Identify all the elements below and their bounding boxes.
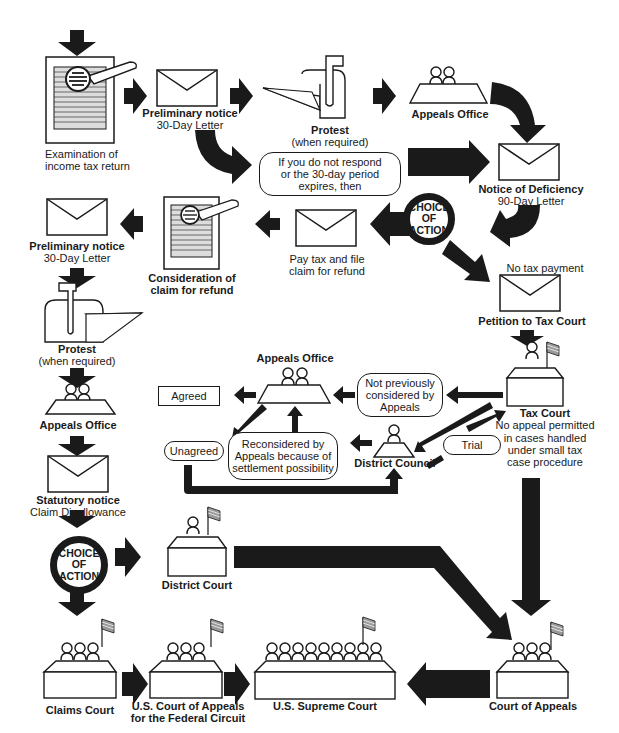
examination-document-icon	[46, 57, 136, 143]
arrow-fed-to-supreme	[224, 663, 250, 705]
tax-court-title: Tax Court	[485, 407, 605, 419]
arrow-refund-to-prelim	[120, 208, 143, 240]
protest-left-title: Protest	[28, 343, 126, 355]
deficiency-envelope-icon	[499, 144, 559, 180]
refund-claim-line1: Consideration of	[142, 272, 242, 284]
not-previously-line1: Not previously	[365, 377, 435, 389]
prelim-left-envelope-icon	[47, 199, 107, 235]
protest-left-label: Protest (when required)	[28, 343, 126, 368]
tax-appeal-flowchart: Examination of income tax return Prelimi…	[0, 0, 619, 733]
tax-court-line2: in cases handled	[485, 432, 605, 444]
arrow-into-examination	[58, 30, 96, 56]
arrow-tax-court-to-not-previously	[446, 386, 503, 404]
deficiency-title: Notice of Deficiency	[476, 183, 586, 195]
arrow-prelim-to-no-response	[195, 130, 252, 184]
reconsidered-line2: Appeals because of	[232, 450, 334, 462]
arrow-tax-court-to-court-of-appeals	[511, 478, 551, 616]
prelim-top-envelope-icon	[157, 70, 217, 106]
not-previously-line2: considered by	[365, 389, 435, 401]
arrow-deficiency-to-choice	[490, 205, 540, 247]
examination-line2: income tax return	[45, 160, 130, 172]
pay-tax-line1: Pay tax and file	[280, 253, 374, 265]
examination-line1: Examination of	[45, 148, 130, 160]
reconsidered-box: Reconsidered by Appeals because of settl…	[228, 432, 338, 480]
arrow-choice-to-petition	[442, 240, 490, 282]
arrow-court-appeals-to-supreme	[407, 662, 490, 706]
choice1-line2: OF	[422, 213, 437, 224]
appeals-office-top-icon	[410, 67, 487, 103]
arrow-protest-to-appeals	[373, 78, 396, 114]
arrow-council-to-reconsidered	[350, 434, 372, 452]
arrow-petition-to-tax-court	[510, 330, 544, 346]
tax-court-icon	[507, 342, 563, 406]
refund-claim-line2: claim for refund	[142, 284, 242, 296]
federal-circuit-court-icon	[150, 619, 223, 698]
appeals-left-title: Appeals Office	[33, 419, 123, 431]
court-of-appeals-title: Court of Appeals	[483, 700, 583, 712]
appeals-office-left-icon	[46, 384, 115, 414]
statutory-envelope-icon	[48, 456, 108, 492]
deficiency-subtitle: 90-Day Letter	[476, 195, 586, 207]
no-response-box: If you do not respond or the 30-day peri…	[259, 152, 401, 196]
arrow-claims-to-fed-circuit	[122, 663, 148, 705]
choice1-line3: ACTION	[409, 225, 449, 236]
appeals-office-mid-icon	[258, 368, 330, 403]
prelim-left-title: Preliminary notice	[28, 240, 126, 252]
prelim-top-title: Preliminary notice	[142, 107, 238, 119]
statutory-subtitle: Claim Disallowance	[28, 506, 128, 518]
tax-court-line4: case procedure	[485, 456, 605, 468]
arrow-reconsidered-to-appeals	[287, 406, 303, 432]
reconsidered-line3: settlement possibility	[232, 462, 334, 474]
fed-circuit-label: U.S. Court of Appeals for the Federal Ci…	[128, 700, 248, 725]
no-response-line2: or the 30-day period	[278, 168, 381, 180]
protest-top-mailbox-icon	[263, 56, 345, 118]
agreed-box: Agreed	[158, 386, 220, 406]
prelim-top-subtitle: 30-Day Letter	[142, 119, 238, 131]
appeals-top-title: Appeals Office	[405, 108, 495, 120]
district-council-icon	[374, 425, 414, 457]
arrow-protest-to-appeals-left	[58, 368, 96, 388]
tax-court-label: Tax Court No appeal permitted in cases h…	[485, 407, 605, 469]
protest-left-subtitle: (when required)	[28, 355, 126, 367]
statutory-label: Statutory notice Claim Disallowance	[28, 494, 128, 519]
pay-tax-label: Pay tax and file claim for refund	[280, 253, 374, 278]
refund-claim-document-icon	[164, 197, 238, 269]
refund-claim-label: Consideration of claim for refund	[142, 272, 242, 297]
choice2-line3: ACTION	[59, 571, 99, 582]
prelim-top-label: Preliminary notice 30-Day Letter	[142, 107, 238, 132]
statutory-title: Statutory notice	[28, 494, 128, 506]
district-council-title: District Council	[350, 457, 440, 469]
not-previously-line3: Appeals	[365, 401, 435, 413]
petition-title: Petition to Tax Court	[475, 315, 589, 327]
fed-circuit-line2: for the Federal Circuit	[128, 712, 248, 724]
petition-envelope-icon	[500, 275, 560, 311]
tax-court-line3: under small tax	[485, 444, 605, 456]
prelim-left-label: Preliminary notice 30-Day Letter	[28, 240, 126, 265]
tax-court-line1: No appeal permitted	[485, 419, 605, 431]
appeals-mid-title: Appeals Office	[250, 352, 340, 364]
arrow-not-previously-to-appeals	[333, 386, 355, 404]
unagreed-box: Unagreed	[164, 441, 224, 461]
supreme-court-title: U.S. Supreme Court	[265, 700, 385, 712]
district-court-title: District Court	[152, 579, 242, 591]
deficiency-label: Notice of Deficiency 90-Day Letter	[476, 183, 586, 208]
claims-court-title: Claims Court	[35, 704, 125, 716]
arrow-choice-to-district-court	[115, 537, 141, 577]
no-response-line3: expires, then	[278, 180, 381, 192]
arrow-appeals-to-statutory	[58, 436, 96, 456]
arrow-appeals-to-agreed	[234, 386, 256, 404]
arrow-pay-to-refund	[255, 210, 280, 238]
pay-tax-line2: claim for refund	[280, 265, 374, 277]
protest-top-subtitle: (when required)	[280, 136, 380, 148]
choice-of-action-1: CHOICE OF ACTION	[403, 193, 455, 245]
reconsidered-line1: Reconsidered by	[232, 438, 334, 450]
fed-circuit-line1: U.S. Court of Appeals	[128, 700, 248, 712]
protest-top-title: Protest	[280, 124, 380, 136]
not-previously-box: Not previously considered by Appeals	[357, 373, 443, 417]
protest-left-mailbox-icon	[45, 283, 142, 342]
examination-label: Examination of income tax return	[45, 148, 130, 173]
no-response-line1: If you do not respond	[278, 156, 381, 168]
prelim-left-subtitle: 30-Day Letter	[28, 252, 126, 264]
choice2-line2: OF	[72, 559, 87, 570]
claims-court-icon	[44, 619, 116, 698]
